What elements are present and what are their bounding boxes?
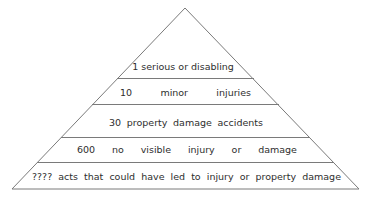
pyramid-outline — [0, 0, 366, 200]
tier-5-word: that — [84, 171, 103, 183]
tier-3-word: damage — [173, 117, 212, 129]
tier-5-word: or — [240, 171, 250, 183]
tier-4-word: damage — [258, 144, 297, 156]
tier-4-word: injury — [188, 144, 215, 156]
tier-5-word: property — [255, 171, 296, 183]
tier-5-word: to — [191, 171, 201, 183]
tier-5-label: ???? acts that could have led to injury … — [32, 171, 341, 183]
tier-2-word: injuries — [216, 87, 251, 99]
tier-5-word: could — [109, 171, 135, 183]
tier-5-word: have — [141, 171, 164, 183]
tier-5-word: led — [171, 171, 186, 183]
tier-1-text: 1 serious or disabling — [132, 61, 234, 73]
tier-3-word: property — [127, 117, 168, 129]
tier-2-word: minor — [160, 87, 188, 99]
tier-2-count: 10 — [120, 87, 132, 99]
tier-2-label: 10 minor injuries — [120, 87, 251, 99]
tier-5-word: acts — [58, 171, 78, 183]
tier-3-word: accidents — [218, 117, 263, 129]
tier-5-word: damage — [302, 171, 341, 183]
tier-1-label: 1 serious or disabling — [132, 61, 234, 73]
tier-4-word: or — [232, 144, 242, 156]
tier-4-label: 600 no visible injury or damage — [77, 144, 297, 156]
tier-4-count: 600 — [77, 144, 95, 156]
safety-pyramid-diagram: 1 serious or disabling 10 minor injuries… — [0, 0, 366, 200]
tier-5-word: injury — [207, 171, 234, 183]
tier-3-label: 30 property damage accidents — [109, 117, 263, 129]
tier-4-word: visible — [141, 144, 171, 156]
tier-3-count: 30 — [109, 117, 121, 129]
tier-4-word: no — [112, 144, 124, 156]
tier-5-count: ???? — [32, 171, 52, 183]
